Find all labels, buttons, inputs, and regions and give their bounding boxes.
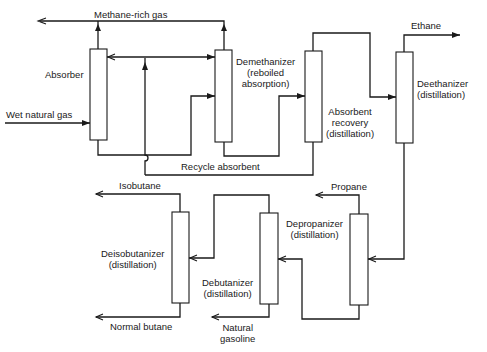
normal-butane-stream [96,303,180,320]
natural-gasoline-label: Natural gasoline [220,322,255,344]
natural-gasoline-stream [212,304,269,320]
flow-lines [0,0,487,352]
isobutane-stream [96,191,180,212]
depropanizer-label: Depropanizer (distillation) [286,218,343,240]
depropanizer-bottoms-stream [278,256,359,319]
depropanizer-column [350,214,368,305]
absorber-bottoms-stream [98,93,215,155]
absorbent-recovery-column [305,51,322,142]
methane-rich-gas-label: Methane-rich gas [94,9,167,20]
absorbent-recovery-label: Absorbent recovery (distillation) [326,106,374,139]
ethane-label: Ethane [411,20,441,31]
debutanizer-overhead-stream [189,195,269,261]
demethanizer-bottoms-stream [224,93,305,156]
methane-rich-gas-stream [38,18,227,50]
demethanizer-label: Demethanizer (reboiled absorption) [236,56,295,89]
deethanizer-column [396,52,413,143]
absorber-label: Absorber [45,69,84,80]
wet-natural-gas-stream [5,120,90,126]
absorber-column [90,49,107,140]
deisobutanizer-label: Deisobutanizer (distillation) [101,248,164,270]
absorbent-recovery-overhead-stream [313,33,396,100]
normal-butane-label: Normal butane [110,321,172,332]
deisobutanizer-column [172,212,189,303]
demethanizer-column [215,50,232,142]
ethane-stream [404,32,460,52]
propane-label: Propane [331,181,367,192]
deethanizer-bottoms-stream [368,143,404,262]
debutanizer-column [260,213,278,304]
debutanizer-label: Debutanizer (distillation) [202,277,253,299]
propane-stream [316,192,359,214]
recycle-absorbent-label: Recycle absorbent [181,161,260,172]
deethanizer-label: Deethanizer (distillation) [417,78,468,100]
process-flow-diagram: Methane-rich gas Wet natural gas Recycle… [0,0,487,352]
isobutane-label: Isobutane [119,180,161,191]
wet-natural-gas-label: Wet natural gas [6,109,72,120]
